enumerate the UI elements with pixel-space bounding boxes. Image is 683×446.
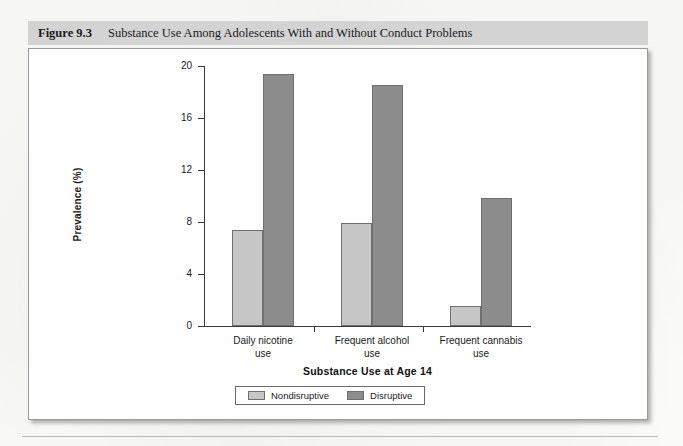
bar-disruptive-frequent-cannabis: [481, 198, 512, 326]
y-tick-label-0: 0: [166, 321, 192, 331]
x-group-label-daily-nicotine: Daily nicotine use: [203, 335, 323, 360]
x-axis-title: Substance Use at Age 14: [204, 365, 531, 377]
y-tick-label-8: 8: [166, 217, 192, 227]
y-axis-line: [204, 66, 205, 327]
chart-plot-area: Prevalence (%) 0 4 8 12 16 20 Daily nico…: [29, 49, 649, 421]
figure-frame: Prevalence (%) 0 4 8 12 16 20 Daily nico…: [28, 48, 648, 420]
legend-label-nondisruptive: Nondisruptive: [271, 390, 329, 401]
legend-swatch-nondisruptive-icon: [248, 391, 265, 400]
x-group-label-frequent-alcohol: Frequent alcohol use: [312, 335, 432, 360]
legend-swatch-disruptive-icon: [347, 391, 364, 400]
figure-caption-bar: Figure 9.3 Substance Use Among Adolescen…: [28, 21, 648, 45]
x-group-label-line1: Daily nicotine: [203, 335, 323, 348]
y-tick-mark-8: [198, 222, 204, 223]
x-group-label-line1: Frequent alcohol: [312, 335, 432, 348]
bar-disruptive-daily-nicotine: [263, 74, 294, 326]
y-tick-mark-4: [198, 274, 204, 275]
y-tick-mark-20: [198, 66, 204, 67]
y-tick-label-12: 12: [166, 165, 192, 175]
y-tick-mark-16: [198, 118, 204, 119]
y-axis-title: Prevalence (%): [72, 135, 83, 275]
figure-caption-text: Substance Use Among Adolescents With and…: [108, 26, 472, 41]
bar-disruptive-frequent-alcohol: [372, 85, 403, 326]
page-bottom-rule: [22, 436, 658, 437]
x-group-label-line2: use: [203, 348, 323, 361]
figure-number: Figure 9.3: [38, 26, 92, 41]
x-group-label-frequent-cannabis: Frequent cannabis use: [421, 335, 541, 360]
x-axis-line: [204, 326, 531, 327]
y-tick-mark-12: [198, 170, 204, 171]
bar-nondisruptive-daily-nicotine: [232, 230, 263, 326]
y-tick-label-20: 20: [166, 61, 192, 71]
x-group-label-line1: Frequent cannabis: [421, 335, 541, 348]
x-group-label-line2: use: [312, 348, 432, 361]
y-tick-mark-0: [198, 326, 204, 327]
x-tick-mark-2: [423, 327, 424, 332]
legend-item-nondisruptive: Nondisruptive: [248, 390, 329, 401]
y-tick-label-16: 16: [166, 113, 192, 123]
bar-nondisruptive-frequent-cannabis: [450, 306, 481, 326]
x-tick-mark-1: [314, 327, 315, 332]
legend-item-disruptive: Disruptive: [347, 390, 412, 401]
chart-legend: Nondisruptive Disruptive: [235, 386, 425, 405]
y-tick-label-4: 4: [166, 269, 192, 279]
legend-label-disruptive: Disruptive: [370, 390, 412, 401]
bar-nondisruptive-frequent-alcohol: [341, 223, 372, 326]
x-group-label-line2: use: [421, 348, 541, 361]
